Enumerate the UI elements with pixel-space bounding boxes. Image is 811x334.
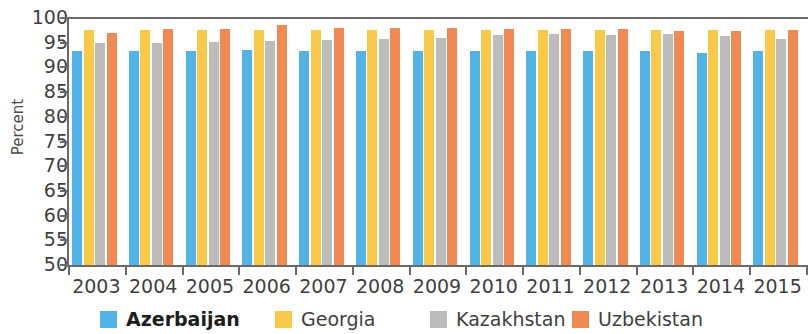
- bar-uzbekistan-2013: [674, 31, 684, 265]
- legend-item-azerbaijan[interactable]: Azerbaijan: [100, 306, 240, 332]
- bar-uzbekistan-2009: [447, 28, 457, 265]
- bar-kazakhstan-2005: [209, 42, 219, 265]
- bar-azerbaijan-2012: [583, 51, 593, 265]
- bar-azerbaijan-2007: [299, 51, 309, 265]
- plot-area: [68, 18, 806, 265]
- x-tick-mark: [295, 266, 297, 275]
- bar-uzbekistan-2012: [618, 29, 628, 265]
- bar-azerbaijan-2013: [640, 51, 650, 265]
- bar-georgia-2003: [84, 30, 94, 265]
- legend-label: Georgia: [301, 310, 376, 329]
- bar-uzbekistan-2006: [277, 25, 287, 265]
- x-tick-mark: [238, 266, 240, 275]
- bar-georgia-2005: [197, 30, 207, 265]
- bar-azerbaijan-2008: [356, 51, 366, 265]
- bar-georgia-2007: [311, 30, 321, 265]
- bar-azerbaijan-2010: [470, 51, 480, 265]
- bar-chart: Percent 10095908580757065605550 20032004…: [0, 0, 811, 334]
- bar-kazakhstan-2012: [606, 35, 616, 265]
- legend-label: Uzbekistan: [598, 310, 703, 329]
- bar-azerbaijan-2015: [753, 51, 763, 265]
- chart-legend: AzerbaijanGeorgiaKazakhstanUzbekistan: [0, 306, 811, 334]
- bar-kazakhstan-2004: [152, 43, 162, 265]
- x-tick-mark: [125, 266, 127, 275]
- legend-item-uzbekistan[interactable]: Uzbekistan: [572, 306, 703, 332]
- x-tick-mark: [636, 266, 638, 275]
- bar-kazakhstan-2010: [493, 35, 503, 265]
- bar-azerbaijan-2005: [186, 51, 196, 265]
- bar-azerbaijan-2011: [526, 51, 536, 265]
- bar-kazakhstan-2008: [379, 39, 389, 265]
- x-tick-mark: [465, 266, 467, 275]
- bar-kazakhstan-2009: [436, 38, 446, 265]
- x-tick-mark: [806, 266, 808, 275]
- bar-kazakhstan-2015: [776, 39, 786, 265]
- x-tick-mark: [68, 266, 70, 275]
- bar-georgia-2010: [481, 30, 491, 265]
- bar-kazakhstan-2006: [265, 41, 275, 265]
- bar-azerbaijan-2003: [72, 51, 82, 265]
- legend-label: Kazakhstan: [456, 310, 565, 329]
- legend-swatch-icon: [275, 311, 292, 328]
- bar-georgia-2006: [254, 30, 264, 265]
- chart-title-clipped: [0, 0, 811, 3]
- axis-line-bottom: [68, 265, 808, 267]
- bar-uzbekistan-2005: [220, 29, 230, 265]
- x-tick-mark: [409, 266, 411, 275]
- bar-georgia-2008: [367, 30, 377, 265]
- bar-uzbekistan-2011: [561, 29, 571, 265]
- bar-uzbekistan-2008: [390, 28, 400, 265]
- bar-georgia-2004: [140, 30, 150, 265]
- x-tick-mark: [579, 266, 581, 275]
- x-tick-mark: [522, 266, 524, 275]
- legend-item-georgia[interactable]: Georgia: [275, 306, 376, 332]
- bar-georgia-2014: [708, 30, 718, 265]
- legend-swatch-icon: [430, 311, 447, 328]
- x-tick-mark: [692, 266, 694, 275]
- bar-kazakhstan-2007: [322, 40, 332, 265]
- bar-uzbekistan-2015: [788, 30, 798, 265]
- bar-uzbekistan-2010: [504, 29, 514, 265]
- x-tick-mark: [749, 266, 751, 275]
- bar-uzbekistan-2014: [731, 31, 741, 265]
- bar-azerbaijan-2014: [697, 53, 707, 265]
- bar-uzbekistan-2004: [163, 29, 173, 265]
- y-axis-ticks: 10095908580757065605550: [0, 0, 68, 334]
- x-tick-mark: [182, 266, 184, 275]
- x-tick-mark: [352, 266, 354, 275]
- bar-georgia-2015: [765, 30, 775, 265]
- bar-georgia-2012: [595, 30, 605, 265]
- bar-georgia-2009: [424, 30, 434, 265]
- bar-georgia-2011: [538, 30, 548, 265]
- bar-uzbekistan-2007: [334, 28, 344, 265]
- bar-azerbaijan-2004: [129, 51, 139, 265]
- bar-azerbaijan-2006: [242, 50, 252, 265]
- x-tick-label: 2015: [743, 276, 811, 296]
- bar-kazakhstan-2011: [549, 34, 559, 265]
- legend-swatch-icon: [100, 311, 117, 328]
- bar-kazakhstan-2014: [720, 36, 730, 265]
- bar-azerbaijan-2009: [413, 51, 423, 265]
- legend-label: Azerbaijan: [126, 310, 240, 329]
- bar-kazakhstan-2013: [663, 34, 673, 265]
- bar-uzbekistan-2003: [107, 33, 117, 265]
- bar-georgia-2013: [651, 30, 661, 265]
- legend-item-kazakhstan[interactable]: Kazakhstan: [430, 306, 565, 332]
- bar-kazakhstan-2003: [95, 43, 105, 265]
- legend-swatch-icon: [572, 311, 589, 328]
